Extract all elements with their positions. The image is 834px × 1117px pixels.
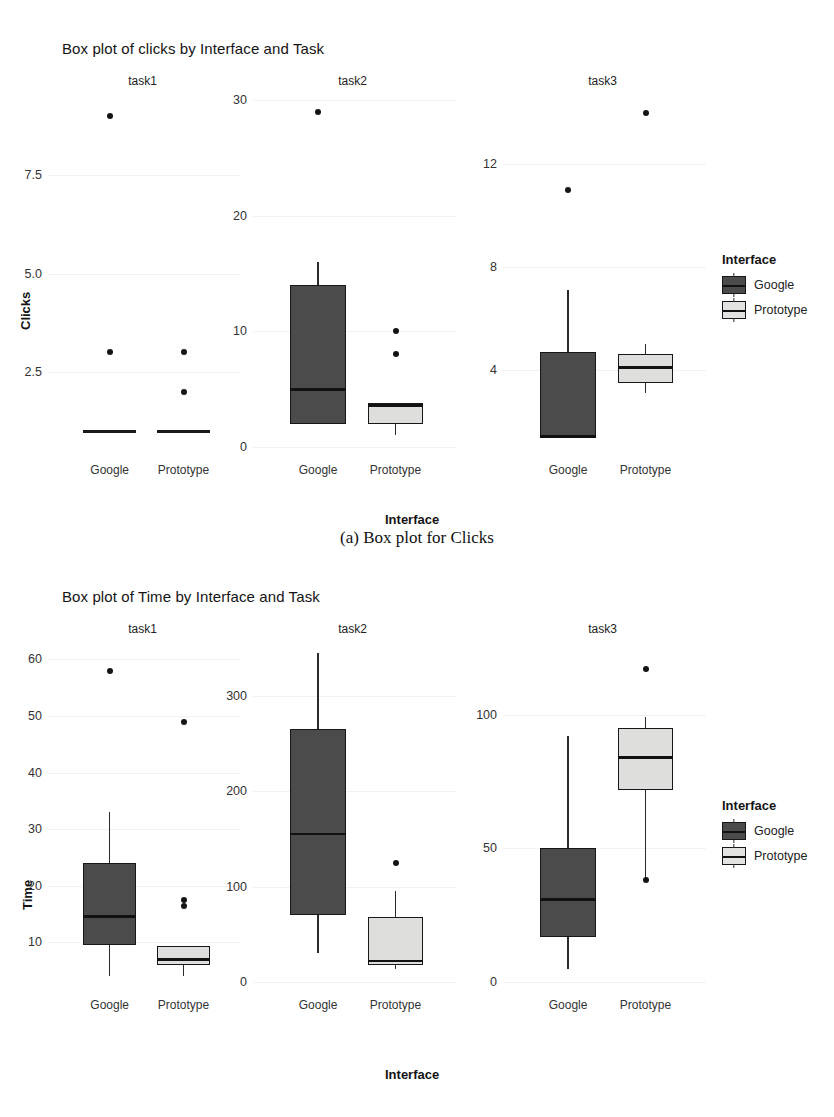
- box-flat[interactable]: [157, 430, 210, 433]
- y-axis-tick-label: 50: [6, 709, 42, 723]
- box-google[interactable]: [540, 848, 596, 936]
- outlier-point: [565, 187, 571, 193]
- panel-task3-clicks: task3 4812GooglePrototype: [495, 74, 710, 499]
- outlier-point: [107, 113, 113, 119]
- y-axis-tick-label: 40: [6, 766, 42, 780]
- gridline: [48, 372, 241, 373]
- y-axis-tick-label: 30: [6, 822, 42, 836]
- legend-swatch-prototype: [722, 847, 746, 865]
- box-google[interactable]: [83, 863, 136, 945]
- x-axis-tick-label: Prototype: [346, 463, 446, 477]
- y-axis-tick-label: 200: [211, 784, 247, 798]
- x-axis-tick-label: Prototype: [346, 998, 446, 1012]
- y-axis-tick-label: 20: [6, 879, 42, 893]
- box-google[interactable]: [290, 729, 346, 915]
- outlier-point: [393, 860, 399, 866]
- outlier-point: [181, 389, 187, 395]
- median-line: [618, 366, 674, 369]
- y-axis-tick-label: 5.0: [6, 267, 42, 281]
- outlier-point: [181, 897, 187, 903]
- panel-label-task2: task2: [245, 74, 460, 88]
- y-axis-tick-label: 20: [211, 209, 247, 223]
- x-axis-tick-label: Prototype: [134, 998, 234, 1012]
- gridline: [503, 164, 706, 165]
- outlier-point: [393, 351, 399, 357]
- outlier-point: [393, 328, 399, 334]
- median-line: [290, 833, 346, 836]
- y-axis-tick-label: 7.5: [6, 168, 42, 182]
- legend-item-google[interactable]: Google: [722, 822, 808, 840]
- y-axis-tick-label: 4: [461, 363, 497, 377]
- median-line: [540, 898, 596, 901]
- legend-label-google: Google: [754, 278, 794, 292]
- whisker-upper: [109, 812, 110, 863]
- legend-title: Interface: [722, 798, 808, 813]
- whisker-lower: [317, 915, 318, 953]
- gridline: [253, 791, 456, 792]
- whisker-lower: [567, 937, 568, 969]
- gridline: [48, 829, 241, 830]
- gridline: [503, 370, 706, 371]
- x-axis-tick-label: Prototype: [134, 463, 234, 477]
- panel-task1-clicks: task1 2.55.07.5GooglePrototype: [40, 74, 245, 499]
- gridline: [253, 696, 456, 697]
- legend-title: Interface: [722, 252, 808, 267]
- legend-item-prototype[interactable]: Prototype: [722, 301, 808, 319]
- box-google[interactable]: [540, 352, 596, 437]
- gridline: [48, 175, 241, 176]
- median-line: [290, 388, 346, 391]
- panel-task3-time: task3 050100GooglePrototype: [495, 622, 710, 1034]
- chart-title-clicks: Box plot of clicks by Interface and Task: [62, 40, 324, 57]
- whisker-upper: [645, 344, 646, 354]
- whisker-upper: [395, 891, 396, 917]
- outlier-point: [315, 109, 321, 115]
- figure-caption-a: (a) Box plot for Clicks: [0, 528, 834, 548]
- gridline: [48, 716, 241, 717]
- y-axis-tick-label: 30: [211, 93, 247, 107]
- whisker-lower: [395, 424, 396, 436]
- panel-label-task3: task3: [495, 74, 710, 88]
- gridline: [253, 331, 456, 332]
- gridline: [503, 848, 706, 849]
- median-line: [83, 915, 136, 918]
- gridline: [253, 447, 456, 448]
- gridline: [253, 100, 456, 101]
- gridline: [48, 274, 241, 275]
- outlier-point: [181, 903, 187, 909]
- legend-item-google[interactable]: Google: [722, 276, 808, 294]
- gridline: [48, 659, 241, 660]
- legend-label-prototype: Prototype: [754, 303, 808, 317]
- legend-swatch-google: [722, 276, 746, 294]
- whisker-upper: [567, 290, 568, 352]
- box-prototype[interactable]: [368, 917, 424, 965]
- outlier-point: [181, 349, 187, 355]
- y-axis-tick-label: 100: [461, 708, 497, 722]
- y-axis-tick-label: 100: [211, 880, 247, 894]
- legend-label-prototype: Prototype: [754, 849, 808, 863]
- y-axis-tick-label: 60: [6, 652, 42, 666]
- y-axis-tick-label: 0: [461, 975, 497, 989]
- x-axis-title-time: Interface: [385, 1067, 439, 1082]
- legend-clicks: Interface Google Prototype: [722, 252, 808, 326]
- gridline: [253, 216, 456, 217]
- gridline: [503, 982, 706, 983]
- whisker-upper: [317, 653, 318, 729]
- y-axis-tick-label: 10: [6, 935, 42, 949]
- box-google[interactable]: [290, 285, 346, 424]
- panel-label-task1: task1: [40, 74, 245, 88]
- panel-task1-time: task1 102030405060GooglePrototype: [40, 622, 245, 1034]
- median-line: [157, 958, 210, 961]
- panel-label-task1: task1: [40, 622, 245, 636]
- y-axis-tick-label: 300: [211, 689, 247, 703]
- outlier-point: [643, 666, 649, 672]
- legend-item-prototype[interactable]: Prototype: [722, 847, 808, 865]
- gridline: [253, 982, 456, 983]
- whisker-upper: [317, 262, 318, 285]
- box-prototype[interactable]: [157, 946, 210, 965]
- whisker-lower: [395, 965, 396, 969]
- y-axis-tick-label: 50: [461, 841, 497, 855]
- panel-label-task2: task2: [245, 622, 460, 636]
- gridline: [503, 715, 706, 716]
- box-flat[interactable]: [83, 430, 136, 433]
- whisker-lower: [109, 945, 110, 976]
